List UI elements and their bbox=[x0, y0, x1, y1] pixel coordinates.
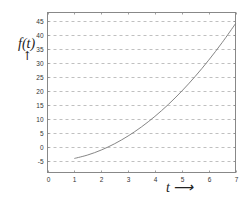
y-tick-label: 5 bbox=[40, 130, 44, 137]
x-tick-label: 1 bbox=[73, 176, 77, 183]
y-tick-label: 25 bbox=[36, 74, 44, 81]
x-axis-label: t ⟶ bbox=[166, 180, 194, 195]
x-tick-label: 7 bbox=[235, 176, 239, 183]
x-tick-label: 0 bbox=[47, 176, 51, 183]
y-tick-label: 20 bbox=[36, 88, 44, 95]
series-line-f-t bbox=[74, 24, 235, 159]
y-tick-label: 40 bbox=[36, 32, 44, 39]
y-tick-label: 10 bbox=[36, 116, 44, 123]
x-axis-ticks: 01234567 bbox=[47, 13, 239, 183]
y-tick-label: 0 bbox=[40, 144, 44, 151]
x-tick-label: 6 bbox=[208, 176, 212, 183]
y-tick-label: 15 bbox=[36, 102, 44, 109]
line-chart: 01234567 -5051015202530354045 f(t) ↑ t ⟶ bbox=[0, 0, 249, 201]
x-tick-label: 2 bbox=[100, 176, 104, 183]
y-gridlines bbox=[48, 22, 236, 162]
y-tick-label: 35 bbox=[36, 46, 44, 53]
x-tick-label: 4 bbox=[154, 176, 158, 183]
y-tick-label: 45 bbox=[36, 18, 44, 25]
x-tick-label: 3 bbox=[127, 176, 131, 183]
plot-frame bbox=[48, 13, 236, 173]
y-axis-arrow-icon: ↑ bbox=[22, 49, 32, 63]
y-tick-label: 30 bbox=[36, 60, 44, 67]
y-tick-label: -5 bbox=[38, 158, 44, 165]
